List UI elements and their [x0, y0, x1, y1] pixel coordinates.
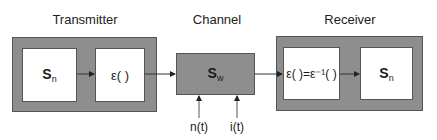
- noise-label: n(t): [190, 120, 208, 134]
- connector-arrows: [0, 0, 437, 140]
- interference-label: i(t): [230, 120, 244, 134]
